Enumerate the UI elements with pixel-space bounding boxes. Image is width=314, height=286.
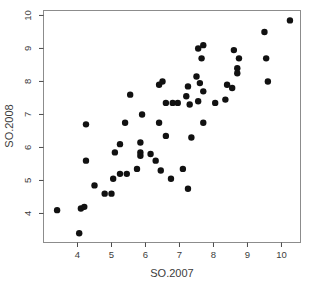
data-point (200, 42, 206, 48)
data-point (168, 176, 174, 182)
scatter-plot-figure: 45678910 45678910 SO.2007 SO.2008 (0, 0, 314, 286)
data-point (195, 98, 201, 104)
data-point (134, 166, 140, 172)
data-point (234, 70, 240, 76)
data-point (108, 190, 114, 196)
x-tick-label: 5 (109, 249, 114, 260)
data-point (91, 182, 97, 188)
y-tick-label: 7 (22, 112, 33, 117)
y-axis-ticks: 45678910 (22, 10, 44, 216)
data-point (163, 133, 169, 139)
y-tick-label: 10 (22, 10, 33, 21)
data-point (287, 17, 293, 23)
data-point (110, 176, 116, 182)
data-point (147, 151, 153, 157)
data-point (124, 171, 130, 177)
x-tick-label: 8 (211, 249, 216, 260)
data-point (229, 85, 235, 91)
data-point (139, 111, 145, 117)
data-point (117, 141, 123, 147)
x-tick-label: 4 (75, 249, 80, 260)
data-point (265, 78, 271, 84)
data-point (183, 93, 189, 99)
data-point (112, 149, 118, 155)
x-tick-label: 6 (143, 249, 148, 260)
data-point (185, 186, 191, 192)
data-point (261, 29, 267, 35)
data-point (212, 100, 218, 106)
data-point (263, 55, 269, 61)
y-tick-label: 9 (22, 46, 33, 51)
data-point (197, 80, 203, 86)
data-point (193, 73, 199, 79)
x-axis-label: SO.2007 (150, 267, 193, 279)
y-tick-label: 8 (22, 79, 33, 84)
data-point (200, 88, 206, 94)
data-point (185, 83, 191, 89)
data-point (152, 157, 158, 163)
data-point (137, 153, 143, 159)
data-point (175, 100, 181, 106)
data-point (198, 55, 204, 61)
y-tick-label: 4 (22, 211, 33, 216)
data-point (101, 190, 107, 196)
data-point (83, 121, 89, 127)
x-tick-label: 10 (276, 249, 287, 260)
data-point (158, 167, 164, 173)
data-point (83, 157, 89, 163)
data-point (186, 101, 192, 107)
y-tick-label: 5 (22, 178, 33, 183)
data-point (236, 55, 242, 61)
data-point (76, 230, 82, 236)
y-tick-label: 6 (22, 145, 33, 150)
data-point (231, 47, 237, 53)
data-point (159, 78, 165, 84)
data-point (122, 120, 128, 126)
x-tick-label: 7 (177, 249, 182, 260)
data-point (180, 166, 186, 172)
data-points (54, 17, 293, 236)
data-point (127, 91, 133, 97)
data-point (188, 134, 194, 140)
data-point (222, 96, 228, 102)
x-axis-ticks: 45678910 (75, 243, 287, 260)
data-point (200, 120, 206, 126)
x-tick-label: 9 (245, 249, 250, 260)
data-point (163, 100, 169, 106)
data-point (54, 207, 60, 213)
data-point (117, 171, 123, 177)
data-point (81, 204, 87, 210)
scatter-plot: 45678910 45678910 SO.2007 SO.2008 (0, 0, 314, 286)
data-point (156, 120, 162, 126)
y-axis-label: SO.2008 (3, 104, 15, 147)
data-point (137, 139, 143, 145)
